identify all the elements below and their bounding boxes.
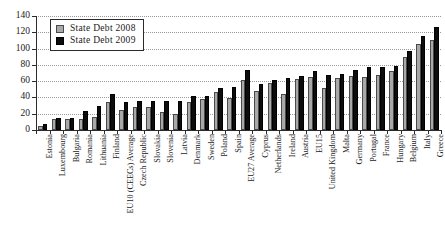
x-axis-tick-label: Latvia bbox=[181, 134, 189, 155]
y-axis-tick-label: 120 bbox=[0, 27, 30, 37]
bar-group bbox=[347, 16, 361, 130]
bar-2009 bbox=[70, 118, 75, 130]
x-axis-tick-label: United Kingdom bbox=[329, 134, 337, 189]
bar-group bbox=[279, 16, 293, 130]
x-axis-tick-label: Portugal bbox=[370, 134, 378, 162]
legend-item-2009: State Debt 2009 bbox=[56, 35, 136, 47]
x-axis-tick-label: France bbox=[383, 134, 391, 156]
bar-group bbox=[374, 16, 388, 130]
bar-group bbox=[360, 16, 374, 130]
bar-group bbox=[333, 16, 347, 130]
x-axis-tick-label: Malta bbox=[343, 134, 351, 153]
bar-2009 bbox=[380, 67, 385, 130]
x-axis-tick-label: Estonia bbox=[46, 134, 54, 159]
bar-2009 bbox=[191, 96, 196, 130]
bar-2009 bbox=[97, 106, 102, 130]
y-axis-tick-label: 20 bbox=[0, 109, 30, 119]
bar-group bbox=[252, 16, 266, 130]
x-axis-tick-label: Finland bbox=[113, 134, 121, 159]
bar-2009 bbox=[218, 88, 223, 130]
bar-group bbox=[320, 16, 334, 130]
bar-2009 bbox=[151, 101, 156, 130]
x-axis-tick-label: Ireland bbox=[289, 134, 297, 157]
bar-2009 bbox=[164, 101, 169, 130]
bar-2009 bbox=[313, 71, 318, 130]
x-axis-tick-label: Czech Republic bbox=[140, 134, 148, 186]
legend-label-2008: State Debt 2008 bbox=[70, 24, 136, 34]
legend-item-2008: State Debt 2008 bbox=[56, 23, 136, 35]
x-axis-tick-label: Spain bbox=[235, 134, 243, 153]
legend: State Debt 2008 State Debt 2009 bbox=[50, 19, 144, 51]
y-axis-tick-label: 0 bbox=[0, 125, 30, 135]
bar-group bbox=[293, 16, 307, 130]
bar-2009 bbox=[178, 101, 183, 130]
y-axis-tick-label: 60 bbox=[0, 76, 30, 86]
bar-chart: 020406080100120140 EstoniaLuxembourgBulg… bbox=[0, 0, 445, 236]
bar-group bbox=[306, 16, 320, 130]
bar-2009 bbox=[137, 101, 142, 130]
x-axis-tick-label: Germany bbox=[356, 134, 364, 164]
y-axis-tick-label: 100 bbox=[0, 44, 30, 54]
bar-group bbox=[36, 16, 50, 130]
bar-2009 bbox=[367, 67, 372, 130]
bar-2009 bbox=[286, 78, 291, 130]
bar-group bbox=[428, 16, 442, 130]
x-axis-tick-label: Lithuania bbox=[100, 134, 108, 165]
bar-group bbox=[212, 16, 226, 130]
x-axis-tick-label: Bulgaria bbox=[73, 134, 81, 162]
bar-2009 bbox=[83, 111, 88, 130]
y-axis-tick-label: 40 bbox=[0, 92, 30, 102]
bar-group bbox=[144, 16, 158, 130]
legend-label-2009: State Debt 2009 bbox=[70, 36, 136, 46]
legend-swatch-2009 bbox=[56, 37, 64, 45]
bar-2009 bbox=[56, 118, 61, 130]
x-axis-tick-label: Slovenia bbox=[167, 134, 175, 163]
bar-group bbox=[225, 16, 239, 130]
legend-swatch-2008 bbox=[56, 25, 64, 33]
x-axis-tick-label: Denmark bbox=[194, 134, 202, 164]
y-axis-tick-label: 140 bbox=[0, 11, 30, 21]
bar-group bbox=[185, 16, 199, 130]
bar-group bbox=[387, 16, 401, 130]
bar-2009 bbox=[434, 27, 439, 130]
x-axis-tick-label: Luxembourg bbox=[59, 134, 67, 176]
x-axis-tick-label: Netherlands bbox=[275, 134, 283, 174]
bar-2009 bbox=[353, 70, 358, 130]
bar-2009 bbox=[326, 75, 331, 130]
bar-2009 bbox=[340, 74, 345, 130]
x-axis-tick-label: Belgium bbox=[410, 134, 418, 162]
bar-2009 bbox=[205, 96, 210, 130]
x-axis-tick-label: Cyprus bbox=[262, 134, 270, 158]
x-axis-tick-label: Italy bbox=[424, 134, 432, 149]
bar-group bbox=[198, 16, 212, 130]
bar-2009 bbox=[110, 94, 115, 130]
x-axis-tick-label: Slovakia bbox=[154, 134, 162, 163]
x-axis-tick-label: Sweden bbox=[208, 134, 216, 160]
bar-2009 bbox=[232, 87, 237, 130]
x-axis-labels: EstoniaLuxembourgBulgariaRomaniaLithuani… bbox=[36, 134, 441, 234]
bar-2009 bbox=[259, 84, 264, 130]
x-axis-tick-label: Hungary bbox=[397, 134, 405, 163]
x-axis-tick-label: Greece bbox=[437, 134, 445, 157]
bar-group bbox=[239, 16, 253, 130]
bar-2009 bbox=[124, 102, 129, 130]
bar-group bbox=[171, 16, 185, 130]
y-axis-tick-label: 80 bbox=[0, 60, 30, 70]
x-axis-tick-label: EU10 (CEECs) Average bbox=[127, 134, 135, 213]
x-axis-tick-label: Poland bbox=[221, 134, 229, 157]
bar-2009 bbox=[407, 51, 412, 130]
bar-group bbox=[414, 16, 428, 130]
bar-2009 bbox=[394, 66, 399, 130]
bar-group bbox=[266, 16, 280, 130]
x-axis-tick-label: EU27 Average bbox=[248, 134, 256, 182]
bar-2009 bbox=[43, 124, 48, 130]
bar-group bbox=[401, 16, 415, 130]
bar-2009 bbox=[299, 76, 304, 130]
bar-2009 bbox=[272, 80, 277, 130]
bar-2009 bbox=[245, 70, 250, 130]
x-axis-tick-label: Austria bbox=[302, 134, 310, 158]
bar-2009 bbox=[421, 36, 426, 130]
x-axis-tick-label: Romania bbox=[86, 134, 94, 164]
bar-group bbox=[158, 16, 172, 130]
x-axis-tick-label: EU15 bbox=[316, 134, 324, 153]
